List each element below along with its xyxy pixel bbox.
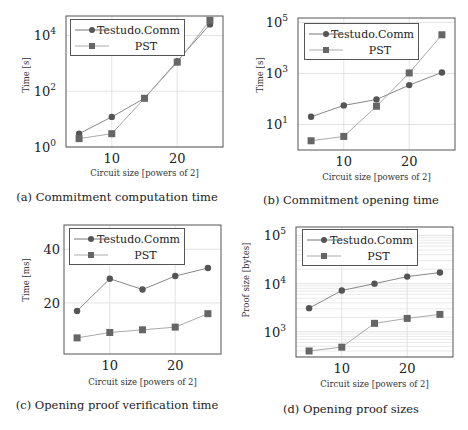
svg-text:10: 10 (334, 361, 351, 376)
legend-item-pst: PST (309, 42, 414, 58)
svg-text:104: 104 (264, 275, 287, 292)
caption: (c) Opening proof verification time (0, 398, 234, 412)
panel-c: 20401020 Time [ms] Circuit size [powers … (0, 215, 234, 430)
legend: Testudo.Comm PST (302, 229, 418, 266)
legend: Testudo.Comm PST (304, 23, 419, 60)
svg-text:102: 102 (34, 82, 56, 99)
square-marker-icon (75, 40, 109, 52)
y-axis-label: Proof size [bytes] (241, 240, 251, 320)
panel-b: 1011031051020 Time [s] Circuit size [pow… (234, 0, 468, 215)
svg-text:104: 104 (34, 26, 57, 43)
svg-text:103: 103 (266, 64, 289, 81)
svg-text:10: 10 (104, 151, 121, 166)
svg-text:20: 20 (399, 361, 416, 376)
svg-text:103: 103 (264, 323, 287, 340)
x-axis-label: Circuit size [powers of 2] (64, 377, 221, 387)
svg-text:20: 20 (169, 151, 186, 166)
square-marker-icon (309, 44, 343, 56)
panel-d: 1031041051020 Proof size [bytes] Circuit… (234, 215, 468, 430)
legend-item-testudo: Testudo.Comm (74, 231, 180, 247)
legend-item-testudo: Testudo.Comm (309, 26, 414, 42)
legend-item-testudo: Testudo.Comm (307, 232, 413, 248)
legend-item-testudo: Testudo.Comm (75, 22, 180, 38)
square-marker-icon (307, 250, 341, 262)
svg-text:20: 20 (43, 296, 60, 311)
legend-item-pst: PST (74, 247, 180, 263)
caption: (b) Commitment opening time (234, 193, 468, 207)
svg-text:20: 20 (401, 154, 418, 169)
square-marker-icon (74, 249, 108, 261)
svg-text:105: 105 (264, 226, 287, 243)
legend-item-pst: PST (307, 248, 413, 264)
circle-marker-icon (309, 28, 328, 40)
caption: (a) Commitment computation time (0, 190, 234, 204)
legend-item-pst: PST (75, 38, 180, 54)
y-axis-label: Time [s] (21, 45, 31, 105)
svg-text:40: 40 (43, 242, 60, 257)
y-axis-label: Time [s] (255, 45, 265, 105)
x-axis-label: Circuit size [powers of 2] (298, 172, 455, 182)
panel-a: 1001021041020 Time [s] Circuit size [pow… (0, 0, 234, 215)
svg-text:100: 100 (34, 138, 57, 155)
svg-text:10: 10 (102, 358, 119, 373)
circle-marker-icon (307, 234, 327, 246)
svg-text:101: 101 (266, 115, 288, 132)
x-axis-label: Circuit size [powers of 2] (66, 168, 223, 178)
x-axis-label: Circuit size [powers of 2] (296, 379, 453, 389)
legend: Testudo.Comm PST (70, 19, 185, 56)
y-axis-label: Time [ms] (21, 250, 31, 310)
svg-text:20: 20 (167, 358, 184, 373)
circle-marker-icon (74, 233, 94, 245)
caption: (d) Opening proof sizes (234, 402, 468, 416)
legend: Testudo.Comm PST (69, 228, 185, 265)
svg-text:10: 10 (336, 154, 353, 169)
circle-marker-icon (75, 24, 94, 36)
svg-text:105: 105 (266, 13, 289, 30)
